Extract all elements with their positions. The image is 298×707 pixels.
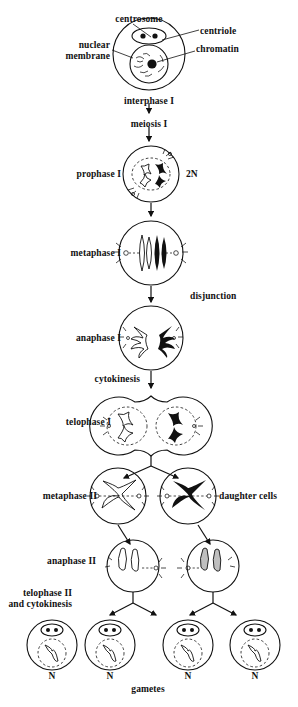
label-metaphase-1: metaphase I: [71, 248, 121, 259]
gamete-cell-4: [230, 620, 280, 670]
label-anaphase-1: anaphase I: [76, 333, 121, 344]
pole-left: [124, 251, 129, 256]
label-chromatin: chromatin: [196, 44, 239, 55]
nucleolus: [147, 59, 156, 68]
label-telophase-1: telophase I: [66, 417, 111, 428]
centriole-dot-left: [140, 33, 145, 38]
cell-metaphase-1: [114, 221, 188, 302]
chromosome-open-anaphase-2-left: [118, 548, 138, 571]
label-n-3: N: [185, 671, 192, 682]
label-cytokinesis: cytokinesis: [95, 374, 140, 385]
aster-rays-telophase-1: [100, 417, 203, 435]
label-centriole: centriole: [200, 26, 236, 37]
cell-prophase-1: [123, 146, 179, 216]
branch-to-gametes: [110, 592, 236, 615]
label-centrosome: centrosome: [115, 14, 162, 25]
label-interphase-1: interphase I: [124, 96, 174, 107]
label-n-4: N: [252, 671, 259, 682]
chromosome-open-metaphase-2-left: [102, 480, 136, 510]
label-metaphase-2: metaphase II: [43, 491, 97, 502]
chromosome-dark-anaphase-1: [158, 326, 175, 358]
label-prophase-1: prophase I: [77, 169, 121, 180]
cell-anaphase-2-left: [105, 540, 166, 592]
label-n-2: N: [107, 671, 114, 682]
centriole-dot-right: [152, 33, 157, 38]
cell-metaphase-2-left: [87, 468, 149, 544]
chromosome-open-telophase-1: [118, 412, 133, 442]
cell-interphase-1: [113, 18, 185, 90]
cell-metaphase-2-right: [157, 468, 219, 544]
meiosis-diagram: centrosome centriole nuclear membrane ch…: [0, 0, 298, 707]
nuclear-envelope-left: [107, 407, 147, 445]
chromosome-dark-metaphase-2-right: [172, 480, 206, 510]
gamete-cell-2: [85, 620, 135, 670]
chromosome-open-prophase: [140, 164, 151, 187]
chromosome-open-metaphase-1: [140, 235, 152, 271]
label-n-1: N: [49, 671, 56, 682]
aster-rays-anaphase-1: [119, 327, 183, 348]
label-meiosis-1: meiosis I: [131, 119, 168, 130]
label-nuclear-membrane: nuclear membrane: [65, 40, 110, 61]
label-anaphase-2: anaphase II: [47, 556, 96, 567]
gamete-cell-1: [27, 620, 77, 670]
label-gametes: gametes: [131, 684, 164, 695]
label-daughter-cells: daughter cells: [219, 491, 277, 502]
gamete-cell-3: [163, 620, 213, 670]
label-ploidy-2n: 2N: [186, 169, 198, 180]
label-telophase-2: telophase II and cytokinesis: [8, 588, 72, 609]
chromosome-open-anaphase-1: [131, 327, 148, 358]
chromosome-dark-telophase-1: [168, 412, 183, 443]
cell-anaphase-2-right: [177, 540, 239, 592]
chromosome-dark-metaphase-1: [155, 235, 167, 271]
chromosome-dark-anaphase-2-right: [200, 548, 220, 571]
pole-right: [174, 251, 179, 256]
label-disjunction: disjunction: [190, 291, 237, 302]
